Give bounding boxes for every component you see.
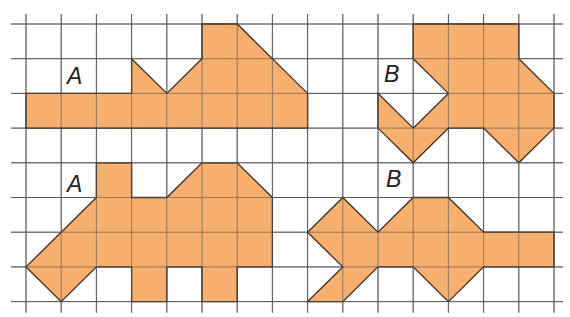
shape-b-bottom [308,198,554,302]
shape-a-top-label: A [67,65,82,88]
shape-a-bottom-label: A [67,173,82,196]
grid-diagram [0,0,570,317]
shape-b-bottom-label: B [386,168,401,191]
shape-b-top-label: B [384,63,399,86]
